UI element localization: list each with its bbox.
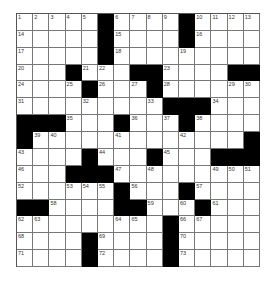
grid-cell[interactable] (147, 48, 163, 65)
grid-cell[interactable] (114, 81, 130, 98)
grid-cell[interactable] (228, 115, 244, 132)
grid-cell[interactable]: 6 (114, 14, 130, 31)
grid-cell[interactable] (211, 216, 227, 233)
grid-cell[interactable] (66, 132, 82, 149)
grid-cell[interactable] (33, 48, 49, 65)
grid-cell[interactable] (98, 98, 114, 115)
grid-cell[interactable]: 14 (17, 31, 33, 48)
grid-cell[interactable] (49, 250, 65, 267)
grid-cell[interactable] (82, 132, 98, 149)
grid-cell[interactable] (147, 250, 163, 267)
grid-cell[interactable] (82, 48, 98, 65)
grid-cell[interactable] (244, 31, 260, 48)
grid-cell[interactable] (66, 250, 82, 267)
grid-cell[interactable] (66, 31, 82, 48)
grid-cell[interactable]: 29 (228, 81, 244, 98)
grid-cell[interactable] (244, 183, 260, 200)
grid-cell[interactable]: 19 (179, 48, 195, 65)
grid-cell[interactable] (179, 65, 195, 82)
grid-cell[interactable] (82, 216, 98, 233)
grid-cell[interactable] (82, 200, 98, 217)
grid-cell[interactable] (98, 200, 114, 217)
grid-cell[interactable] (114, 98, 130, 115)
grid-cell[interactable]: 50 (228, 166, 244, 183)
grid-cell[interactable] (211, 48, 227, 65)
grid-cell[interactable] (163, 31, 179, 48)
grid-cell[interactable]: 42 (179, 132, 195, 149)
grid-cell[interactable] (66, 149, 82, 166)
grid-cell[interactable] (211, 183, 227, 200)
grid-cell[interactable]: 41 (114, 132, 130, 149)
grid-cell[interactable] (195, 65, 211, 82)
grid-cell[interactable] (114, 233, 130, 250)
grid-cell[interactable]: 13 (244, 14, 260, 31)
grid-cell[interactable]: 10 (195, 14, 211, 31)
grid-cell[interactable] (66, 216, 82, 233)
grid-cell[interactable] (179, 149, 195, 166)
grid-cell[interactable]: 26 (98, 81, 114, 98)
grid-cell[interactable]: 62 (17, 216, 33, 233)
grid-cell[interactable] (163, 48, 179, 65)
grid-cell[interactable] (49, 81, 65, 98)
grid-cell[interactable] (49, 98, 65, 115)
grid-cell[interactable]: 35 (66, 115, 82, 132)
grid-cell[interactable]: 52 (17, 183, 33, 200)
grid-cell[interactable] (195, 149, 211, 166)
grid-cell[interactable] (211, 31, 227, 48)
grid-cell[interactable]: 20 (17, 65, 33, 82)
grid-cell[interactable]: 66 (179, 216, 195, 233)
grid-cell[interactable]: 1 (17, 14, 33, 31)
grid-cell[interactable]: 38 (195, 115, 211, 132)
grid-cell[interactable] (244, 200, 260, 217)
grid-cell[interactable] (211, 233, 227, 250)
grid-cell[interactable]: 8 (147, 14, 163, 31)
grid-cell[interactable] (114, 65, 130, 82)
grid-cell[interactable] (147, 132, 163, 149)
grid-cell[interactable]: 69 (98, 233, 114, 250)
grid-cell[interactable] (163, 166, 179, 183)
grid-cell[interactable] (163, 200, 179, 217)
grid-cell[interactable] (228, 216, 244, 233)
grid-cell[interactable] (163, 132, 179, 149)
grid-cell[interactable]: 16 (195, 31, 211, 48)
grid-cell[interactable] (49, 166, 65, 183)
grid-cell[interactable]: 44 (98, 149, 114, 166)
grid-cell[interactable] (49, 48, 65, 65)
grid-cell[interactable] (114, 250, 130, 267)
grid-cell[interactable] (244, 216, 260, 233)
grid-cell[interactable]: 43 (17, 149, 33, 166)
grid-cell[interactable]: 60 (179, 200, 195, 217)
grid-cell[interactable]: 5 (82, 14, 98, 31)
grid-cell[interactable]: 56 (130, 183, 146, 200)
grid-cell[interactable] (195, 166, 211, 183)
grid-cell[interactable] (98, 132, 114, 149)
grid-cell[interactable] (211, 250, 227, 267)
grid-cell[interactable] (228, 132, 244, 149)
grid-cell[interactable]: 63 (33, 216, 49, 233)
grid-cell[interactable] (228, 250, 244, 267)
grid-cell[interactable]: 33 (147, 98, 163, 115)
grid-cell[interactable] (195, 250, 211, 267)
grid-cell[interactable]: 30 (244, 81, 260, 98)
grid-cell[interactable]: 59 (147, 200, 163, 217)
grid-cell[interactable] (66, 48, 82, 65)
grid-cell[interactable]: 57 (195, 183, 211, 200)
grid-cell[interactable]: 64 (114, 216, 130, 233)
grid-cell[interactable] (211, 65, 227, 82)
grid-cell[interactable]: 17 (17, 48, 33, 65)
grid-cell[interactable] (49, 149, 65, 166)
grid-cell[interactable]: 51 (244, 166, 260, 183)
grid-cell[interactable] (98, 115, 114, 132)
grid-cell[interactable] (211, 115, 227, 132)
grid-cell[interactable]: 70 (179, 233, 195, 250)
grid-cell[interactable] (49, 31, 65, 48)
grid-cell[interactable] (147, 233, 163, 250)
grid-cell[interactable]: 11 (211, 14, 227, 31)
grid-cell[interactable] (82, 31, 98, 48)
grid-cell[interactable] (195, 81, 211, 98)
grid-cell[interactable] (130, 31, 146, 48)
grid-cell[interactable] (228, 200, 244, 217)
grid-cell[interactable]: 37 (163, 115, 179, 132)
grid-cell[interactable] (49, 233, 65, 250)
grid-cell[interactable]: 46 (17, 166, 33, 183)
